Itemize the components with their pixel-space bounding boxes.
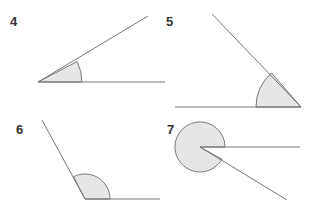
figure-7: 7: [167, 122, 300, 200]
figure-4: 4: [10, 14, 165, 82]
ray-lower-7: [200, 147, 287, 200]
angles-diagram: 4 5 6 7: [0, 0, 318, 221]
ray-upper-5: [212, 14, 301, 107]
angle-arc-6: [74, 174, 111, 199]
ray-upper-6: [42, 120, 85, 199]
angle-arc-4: [38, 62, 82, 82]
figure-label-6: 6: [16, 122, 23, 137]
figure-5: 5: [166, 14, 301, 107]
figure-label-5: 5: [166, 14, 173, 29]
angle-arc-5: [256, 73, 301, 107]
figure-label-4: 4: [10, 14, 18, 29]
figure-6: 6: [16, 120, 160, 199]
ray-upper-4: [38, 16, 148, 82]
figure-label-7: 7: [167, 122, 174, 137]
